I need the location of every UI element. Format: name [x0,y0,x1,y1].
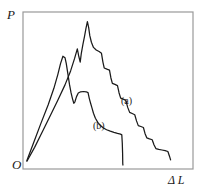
curve-b-line [27,56,123,165]
load-displacement-figure: P Δ L O (a) (b) [0,0,201,195]
axis-frame [23,12,193,169]
curve-group [27,22,171,165]
curve-b-label: (b) [93,121,105,131]
origin-label: O [12,158,21,171]
frame-rectangle [23,12,193,169]
curve-a-label: (a) [121,96,132,106]
x-axis-label: Δ L [168,174,185,186]
y-axis-label: P [7,8,15,21]
plot-canvas [0,0,201,195]
curve-a-line [27,22,171,162]
